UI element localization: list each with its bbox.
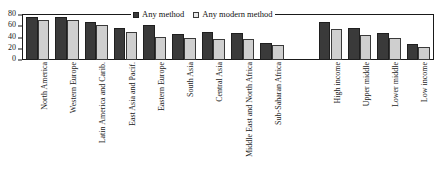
bar-chart: 020406080 Any methodAny modern method No… [0,0,441,186]
bar [38,20,50,60]
x-tick-label: Upper middle [363,62,371,106]
bar-group [407,15,430,60]
x-tick-label: Low income [421,62,429,102]
x-tick-label: South Asia [187,62,195,97]
bar [55,17,67,60]
bar [202,32,214,60]
x-tick-label: Middle East and North Africa [246,62,254,157]
bar-group [85,15,108,60]
legend-item: Any method [133,10,184,19]
dark-square-icon [133,12,139,18]
bar [418,47,430,60]
bar [360,35,372,60]
bar [348,28,360,60]
x-tick-label: Central Asia [216,62,224,102]
legend-label: Any method [142,10,184,19]
bar-group [319,15,342,60]
x-tick-label: North America [41,62,49,110]
bar [143,25,155,60]
y-tick-label: 0 [12,55,16,63]
x-axis-labels: North AmericaWestern EuropeLatin America… [23,62,433,184]
bar [96,25,108,60]
x-tick-label: Western Europe [70,62,78,113]
bar-group [114,15,137,60]
bar [126,32,138,60]
x-tick-label: Lower middle [392,62,400,107]
bar [260,43,272,60]
bar-group [55,15,78,60]
x-tick-label: High income [334,62,342,104]
bar-group [377,15,400,60]
bar [155,37,167,60]
x-tick-label: East Asia and Pacif. [129,62,137,126]
bar [67,20,79,60]
bar [377,33,389,60]
legend-label: Any modern method [202,10,272,19]
legend-item: Any modern method [193,10,272,19]
bar-group [202,15,225,60]
chart-legend: Any methodAny modern method [131,10,275,19]
light-square-icon [193,12,199,18]
bar-group [260,15,283,60]
y-axis: 020406080 [0,14,20,60]
bar [319,22,331,60]
y-tick-label: 40 [8,33,16,41]
bar [272,45,284,60]
bar-group [172,15,195,60]
bar-group [231,15,254,60]
bar [114,28,126,60]
bar-group [26,15,49,60]
x-tick-label: Eastern Europe [158,62,166,111]
x-tick-label: Latin America and Carib. [99,62,107,143]
bar [389,38,401,60]
bar [184,38,196,61]
bar [243,39,255,60]
x-tick-label: Sub-Saharan Africa [275,62,283,125]
y-tick-label: 60 [8,21,16,29]
bar-group [348,15,371,60]
bar-group [143,15,166,60]
y-tick-label: 20 [8,44,16,52]
bar [231,33,243,60]
bar [85,22,97,60]
bar [213,39,225,60]
bar [26,17,38,60]
bar [407,44,419,60]
bars-layer [23,15,433,60]
bar [331,29,343,61]
y-tick-label: 80 [8,10,16,18]
bar [172,34,184,60]
